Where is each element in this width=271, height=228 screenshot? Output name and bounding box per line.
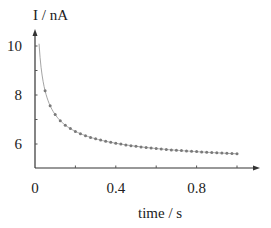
- x-tick-label: 0: [31, 180, 39, 196]
- y-axis-label: I / nA: [33, 7, 68, 23]
- x-axis-label: time / s: [138, 205, 182, 221]
- data-point: [129, 144, 132, 147]
- data-point: [150, 146, 153, 149]
- data-point: [225, 152, 228, 155]
- data-point: [49, 104, 52, 107]
- data-point: [140, 145, 143, 148]
- data-point: [180, 149, 183, 152]
- y-tick-label: 10: [7, 38, 22, 54]
- data-point: [215, 151, 218, 154]
- data-point: [124, 143, 127, 146]
- data-point: [99, 139, 102, 142]
- data-point: [64, 124, 67, 127]
- y-tick-label: 6: [15, 136, 23, 152]
- data-point: [145, 146, 148, 149]
- data-point: [220, 152, 223, 155]
- axes: [33, 29, 261, 171]
- y-tick-labels: 6810: [7, 38, 23, 152]
- chart: 00.40.8 6810 I / nA time / s: [0, 0, 271, 228]
- data-point: [119, 143, 122, 146]
- data-point: [205, 151, 208, 154]
- y-tick-label: 8: [15, 87, 23, 103]
- data-point: [44, 89, 47, 92]
- data-point: [155, 147, 158, 150]
- data-point: [185, 150, 188, 153]
- data-point: [59, 119, 62, 122]
- data-point: [104, 140, 107, 143]
- data-point: [160, 147, 163, 150]
- x-tick-label: 0.4: [106, 180, 125, 196]
- data-point: [135, 145, 138, 148]
- data-point: [79, 132, 82, 135]
- data-point: [230, 152, 233, 155]
- data-point: [89, 136, 92, 139]
- data-point: [114, 142, 117, 145]
- data-point: [109, 141, 112, 144]
- data-point: [54, 113, 57, 116]
- data-point: [74, 130, 77, 133]
- data-point: [170, 148, 173, 151]
- data-point: [236, 152, 239, 155]
- data-point: [200, 151, 203, 154]
- y-axis-arrow-icon: [33, 29, 38, 36]
- data-point: [94, 137, 97, 140]
- data-point: [210, 151, 213, 154]
- x-axis-arrow-icon: [253, 166, 260, 171]
- x-tick-labels: 00.40.8: [31, 180, 206, 196]
- x-tick-label: 0.8: [187, 180, 206, 196]
- data-point: [69, 127, 72, 130]
- data-point: [195, 150, 198, 153]
- data-point: [84, 134, 87, 137]
- data-point: [175, 149, 178, 152]
- data-point: [165, 148, 168, 151]
- data-point: [190, 150, 193, 153]
- fit-line: [39, 44, 237, 154]
- data-markers: [44, 89, 239, 155]
